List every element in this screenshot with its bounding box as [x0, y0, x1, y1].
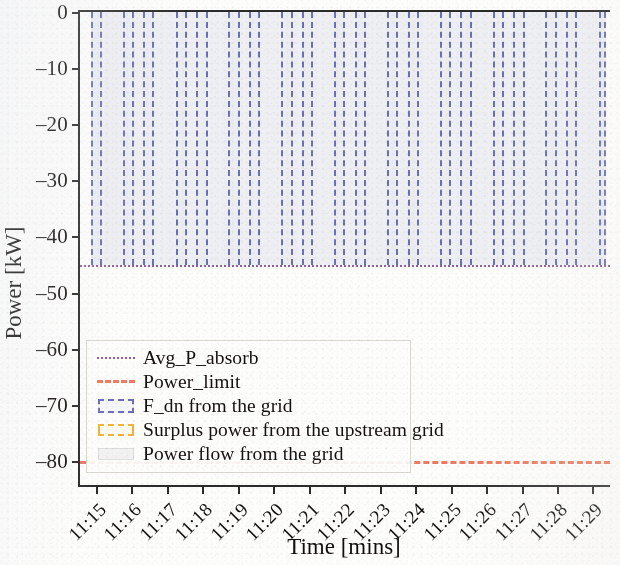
f-dn-rect — [566, 12, 577, 265]
f-dn-rect — [302, 12, 313, 265]
x-tick — [415, 485, 417, 494]
x-tick — [167, 485, 169, 494]
legend-item-label: Power flow from the grid — [143, 443, 344, 465]
x-tick — [451, 485, 453, 494]
y-tick — [72, 349, 80, 351]
y-tick-label: –60 — [36, 336, 68, 361]
dotted-line-purple-icon — [96, 349, 136, 367]
x-tick — [486, 485, 488, 494]
f-dn-rect — [91, 12, 102, 265]
legend-item-label: F_dn from the grid — [143, 395, 293, 417]
f-dn-rect — [408, 12, 419, 265]
f-dn-rect — [599, 12, 606, 265]
legend-item-label: Surplus power from the upstream grid — [143, 419, 444, 441]
legend-item[interactable]: Surplus power from the upstream grid — [96, 418, 401, 442]
y-tick — [72, 12, 80, 14]
y-tick-label: –30 — [36, 168, 68, 193]
f-dn-rect — [355, 12, 366, 265]
x-tick — [522, 485, 524, 494]
legend: Avg_P_absorbPower_limitF_dn from the gri… — [86, 340, 411, 473]
legend-item[interactable]: F_dn from the grid — [96, 394, 401, 418]
x-tick — [309, 485, 311, 494]
legend-item[interactable]: Avg_P_absorb — [96, 346, 401, 370]
power-flow-band — [91, 12, 606, 265]
y-tick — [72, 461, 80, 463]
y-tick — [72, 293, 80, 295]
x-tick — [380, 485, 382, 494]
legend-item[interactable]: Power flow from the grid — [96, 442, 401, 466]
x-axis-title: Time [mins] — [78, 534, 610, 560]
avg-p-absorb-line — [80, 265, 610, 267]
legend-item[interactable]: Power_limit — [96, 370, 401, 394]
f-dn-rect — [545, 12, 556, 265]
y-tick-label: –40 — [36, 224, 68, 249]
f-dn-rect — [513, 12, 524, 265]
y-tick-label: –70 — [36, 392, 68, 417]
y-tick-label: –80 — [36, 448, 68, 473]
f-dn-rect — [176, 12, 187, 265]
legend-item-label: Power_limit — [143, 371, 241, 393]
y-tick-label: 0 — [57, 0, 68, 25]
f-dn-rect — [228, 12, 239, 265]
y-tick-label: –50 — [36, 280, 68, 305]
x-tick — [202, 485, 204, 494]
filled-box-gray-icon — [96, 445, 136, 463]
x-tick — [131, 485, 133, 494]
x-tick — [592, 485, 594, 494]
y-tick-label: –20 — [36, 112, 68, 137]
f-dn-rect — [440, 12, 451, 265]
y-tick — [72, 180, 80, 182]
dashed-line-red-icon — [96, 373, 136, 391]
y-tick — [72, 68, 80, 70]
f-dn-rect — [281, 12, 292, 265]
y-tick — [72, 405, 80, 407]
figure: Power [kW] 0–10–20–30–40–50–60–70–80 11:… — [0, 0, 620, 565]
y-tick — [72, 236, 80, 238]
f-dn-rect — [123, 12, 134, 265]
f-dn-rect — [334, 12, 345, 265]
legend-item-label: Avg_P_absorb — [143, 347, 259, 369]
x-tick — [557, 485, 559, 494]
f-dn-rect — [460, 12, 471, 265]
x-tick — [238, 485, 240, 494]
y-axis-title: Power [kW] — [1, 173, 27, 393]
f-dn-rect — [493, 12, 504, 265]
f-dn-rect — [387, 12, 398, 265]
x-tick — [273, 485, 275, 494]
x-tick — [96, 485, 98, 494]
f-dn-rect — [249, 12, 260, 265]
y-tick-label: –10 — [36, 56, 68, 81]
dashed-box-blue-icon — [96, 397, 136, 415]
dashed-box-orange-icon — [96, 421, 136, 439]
f-dn-rect — [196, 12, 207, 265]
f-dn-rect — [143, 12, 154, 265]
y-tick — [72, 124, 80, 126]
x-tick — [344, 485, 346, 494]
